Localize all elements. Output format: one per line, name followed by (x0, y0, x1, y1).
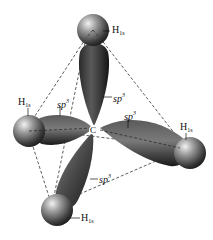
sp-sup: 3 (122, 92, 125, 98)
label-sp3-right: sp3 (124, 110, 136, 122)
label-h1s-bottom: H1s (81, 213, 94, 224)
sp-text: sp (57, 99, 66, 110)
hydrogen-sphere-right (174, 137, 206, 169)
h-subscript: 1s (88, 218, 93, 224)
orbital-lobe-top (79, 43, 109, 126)
label-h1s-right: H1s (180, 122, 193, 133)
h-subscript: 1s (119, 30, 124, 36)
label-sp3-bottom: sp3 (99, 173, 111, 185)
sp-text: sp (99, 174, 108, 185)
sp-text: sp (113, 93, 122, 104)
label-h1s-left: H1s (18, 97, 31, 108)
label-carbon: C (90, 126, 96, 135)
h-subscript: 1s (25, 102, 30, 108)
sp-text: sp (124, 111, 133, 122)
sp-sup: 3 (108, 173, 111, 179)
label-sp3-left: sp3 (57, 98, 69, 110)
label-sp3-top: sp3 (113, 92, 125, 104)
hydrogen-sphere-bottom (41, 194, 73, 226)
sp-sup: 3 (133, 110, 136, 116)
label-h1s-top: H1s (112, 25, 125, 36)
methane-sp3-diagram (0, 0, 213, 240)
h-subscript: 1s (187, 127, 192, 133)
sp-sup: 3 (66, 98, 69, 104)
